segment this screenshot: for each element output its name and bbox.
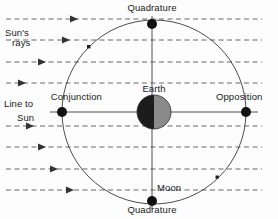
sun-ray (6, 187, 262, 194)
earth-body (137, 95, 171, 129)
sun-ray (6, 123, 262, 130)
label-suns-rays-line2: rays (12, 38, 66, 49)
label-moon: Moon (157, 183, 205, 194)
sun-ray (6, 144, 262, 151)
label-quadrature-top: Quadrature (109, 3, 195, 14)
sun-ray (6, 59, 262, 66)
label-quadrature-bottom: Quadrature (109, 205, 195, 216)
moon-phase-diagram: Quadrature Quadrature Conjunction Opposi… (0, 0, 278, 219)
label-earth: Earth (130, 84, 178, 95)
orbit-tick-upper-left (87, 45, 90, 48)
moon-marker-quadrature-top[interactable] (147, 19, 157, 29)
moon-marker-opposition[interactable] (241, 107, 251, 117)
label-opposition: Opposition (216, 92, 278, 103)
label-line-to-sun-line2: Sun (17, 113, 75, 124)
sun-ray (6, 166, 262, 173)
sun-ray (6, 16, 262, 23)
orbit-tick-lower-right (216, 176, 219, 179)
label-line-to-sun-line1: Line to (4, 99, 62, 110)
